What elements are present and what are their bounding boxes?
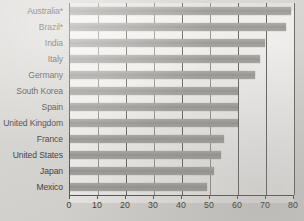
bar [70,119,238,127]
bar-row [70,51,294,67]
category-label: Japan [40,163,63,179]
bar [70,103,238,111]
bar-row [70,147,294,163]
bar-row [70,35,294,51]
bar [70,87,238,95]
category-label: Spain [42,99,63,115]
bar [70,151,221,159]
x-axis-tick-label: 80 [280,200,304,210]
bar [70,55,260,63]
category-label: France [37,131,63,147]
x-axis-tick-label: 30 [140,200,166,210]
bar-row [70,3,294,19]
bar [70,71,255,79]
category-label: United States [13,147,63,163]
bar [70,183,207,191]
category-label: Australia* [27,3,63,19]
horizontal-bar-chart: Australia*Brazil*IndiaItalyGermanySouth … [0,0,304,221]
category-label: South Korea [16,83,63,99]
bar [70,135,224,143]
bar [70,23,286,31]
bar-row [70,163,294,179]
x-axis-tick [153,195,154,199]
x-axis-tick-label: 0 [56,200,82,210]
bar-row [70,99,294,115]
x-axis-tick-label: 60 [224,200,250,210]
bar-row [70,67,294,83]
bar [70,39,265,47]
x-axis-tick-label: 40 [168,200,194,210]
category-label: United Kingdom [3,115,63,131]
bar [70,7,291,15]
bar-row [70,131,294,147]
x-axis-tick-label: 10 [84,200,110,210]
bar-row [70,19,294,35]
x-axis-tick-label: 50 [196,200,222,210]
x-axis-tick [293,195,294,199]
category-label: Mexico [36,179,63,195]
x-axis-tick [237,195,238,199]
x-axis-tick [209,195,210,199]
x-axis-tick-label: 20 [112,200,138,210]
x-axis-tick [181,195,182,199]
x-axis-tick [97,195,98,199]
bar-row [70,179,294,195]
x-axis-tick [265,195,266,199]
category-label: Brazil* [39,19,63,35]
bar [70,167,214,175]
x-axis-tick-label: 70 [252,200,278,210]
plot-area [69,3,295,195]
category-label: India [45,35,63,51]
x-axis-tick [69,195,70,199]
category-label: Germany [28,67,63,83]
bar-row [70,83,294,99]
bar-row [70,115,294,131]
category-label: Italy [48,51,63,67]
category-axis-labels: Australia*Brazil*IndiaItalyGermanySouth … [0,3,66,195]
x-axis-tick [125,195,126,199]
